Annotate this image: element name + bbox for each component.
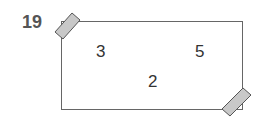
tape-top-left (55, 13, 80, 39)
tape-bottom-right (222, 88, 251, 116)
tape-strips (0, 0, 269, 123)
